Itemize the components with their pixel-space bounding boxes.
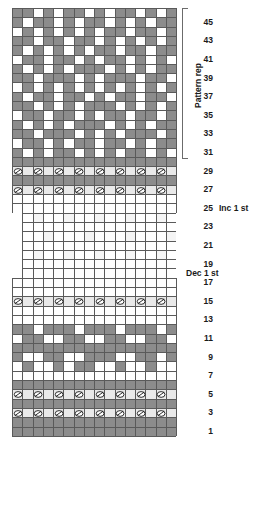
row-number-label: 11 — [197, 334, 213, 343]
row-number-label: 33 — [197, 129, 213, 138]
row-number-label: 9 — [197, 353, 213, 362]
row-number-label: 25 — [197, 204, 213, 213]
row-number-label: 13 — [197, 315, 213, 324]
row-number-label: 1 — [197, 427, 213, 436]
row-number-label: 43 — [197, 36, 213, 45]
row-number-label: 15 — [197, 297, 213, 306]
chart-labels-layer: 4543413937353331292725232119171513119753… — [0, 0, 258, 515]
knitting-chart: 4543413937353331292725232119171513119753… — [0, 0, 258, 515]
row-number-label: 31 — [197, 148, 213, 157]
row-number-label: 21 — [197, 241, 213, 250]
row-number-label: 5 — [197, 390, 213, 399]
pattern-repeat-label: Pattern rep — [194, 64, 203, 109]
row-number-label: 29 — [197, 167, 213, 176]
row-number-label: 27 — [197, 185, 213, 194]
row-number-label: 35 — [197, 111, 213, 120]
row-number-label: 19 — [197, 260, 213, 269]
row-number-label: 3 — [197, 408, 213, 417]
row-number-label: 7 — [197, 371, 213, 380]
row-number-label: 45 — [197, 18, 213, 27]
chart-annotation: Dec 1 st — [186, 269, 219, 278]
row-number-label: 23 — [197, 222, 213, 231]
row-number-label: 17 — [197, 278, 213, 287]
pattern-repeat-bracket — [182, 8, 188, 159]
chart-annotation: Inc 1 st — [219, 204, 248, 213]
